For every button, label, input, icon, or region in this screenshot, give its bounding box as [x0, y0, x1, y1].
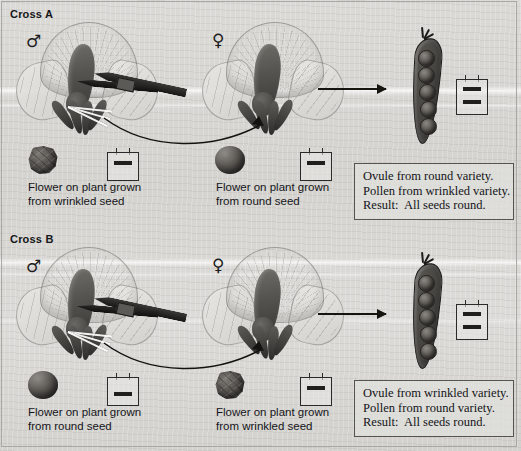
- round-seed-icon: [28, 371, 58, 399]
- label-tag-icon: [107, 148, 137, 179]
- female-caption-b: Flower on plant grown from wrinkled seed: [216, 405, 329, 433]
- cross-b-panel: Cross B ♂ ♀: [0, 225, 521, 450]
- fertilization-arrow-a: [318, 84, 386, 94]
- result-line-result: Result: All seeds round.: [363, 198, 506, 213]
- result-box-a: Ovule from round variety. Pollen from wr…: [354, 163, 514, 220]
- pea-pod-b: [408, 253, 442, 371]
- result-line-ovule: Ovule from wrinkled variety.: [363, 386, 506, 401]
- label-tag-icon: [107, 373, 137, 404]
- result-line-pollen: Pollen from round variety.: [363, 401, 506, 416]
- result-line-result: Result: All seeds round.: [363, 415, 506, 430]
- male-caption-b: Flower on plant grown from round seed: [28, 405, 141, 433]
- label-tag-icon: [300, 373, 330, 404]
- pea-pod-a: [408, 28, 442, 146]
- label-tag-icon: [456, 300, 486, 340]
- cross-a-panel: Cross A ♂ ♀: [0, 0, 521, 225]
- female-caption-a: Flower on plant grown from round seed: [216, 180, 329, 208]
- result-line-ovule: Ovule from round variety.: [363, 169, 506, 184]
- result-line-pollen: Pollen from wrinkled variety.: [363, 184, 506, 199]
- round-seed-icon: [215, 146, 245, 174]
- male-caption-a: Flower on plant grown from wrinkled seed: [28, 180, 141, 208]
- fertilization-arrow-b: [318, 309, 386, 319]
- figure-canvas: Cross A ♂ ♀: [0, 0, 521, 451]
- label-tag-icon: [456, 75, 486, 115]
- label-tag-icon: [300, 148, 330, 179]
- result-box-b: Ovule from wrinkled variety. Pollen from…: [354, 380, 514, 437]
